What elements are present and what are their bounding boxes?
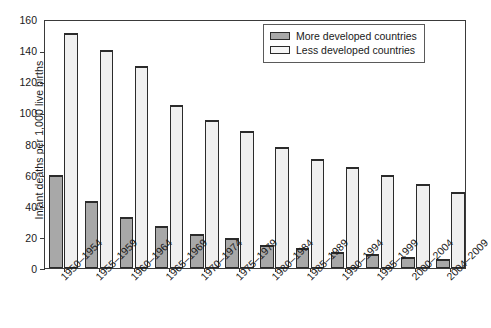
y-tick-mark [40,238,45,239]
bar-group [49,21,78,268]
infant-mortality-bar-chart: Infant deaths per 1,000 live births 0204… [0,0,491,328]
y-tick-mark [40,114,45,115]
legend-label-more-developed: More developed countries [296,30,417,42]
legend-label-less-developed: Less developed countries [296,44,415,56]
y-tick-mark [40,207,45,208]
bar-less-developed [311,159,325,268]
bar-group [436,21,465,268]
y-tick-label: 20 [25,232,37,244]
y-tick-mark [40,145,45,146]
bar-less-developed [346,167,360,268]
legend-swatch-less-developed [270,46,290,54]
y-tick-label: 160 [19,14,37,26]
bar-less-developed [64,33,78,268]
legend-swatch-more-developed [270,32,290,40]
y-tick-mark [40,52,45,53]
y-tick-mark [40,269,45,270]
bar-group [85,21,114,268]
y-tick-label: 100 [19,107,37,119]
bar-less-developed [135,66,149,268]
y-tick-label: 120 [19,76,37,88]
legend-item-less-developed: Less developed countries [270,43,417,57]
bar-less-developed [275,147,289,268]
y-tick-mark [40,83,45,84]
bar-more-developed [49,175,63,268]
y-tick-label: 0 [31,263,37,275]
bar-group [155,21,184,268]
legend-item-more-developed: More developed countries [270,29,417,43]
bar-less-developed [100,50,114,268]
y-tick-label: 60 [25,170,37,182]
chart-legend: More developed countries Less developed … [263,24,425,63]
bar-group [120,21,149,268]
y-tick-mark [40,176,45,177]
y-tick-label: 40 [25,201,37,213]
bar-group [190,21,219,268]
y-tick-label: 140 [19,45,37,57]
bar-less-developed [240,131,254,268]
y-tick-label: 80 [25,139,37,151]
bar-group [225,21,254,268]
